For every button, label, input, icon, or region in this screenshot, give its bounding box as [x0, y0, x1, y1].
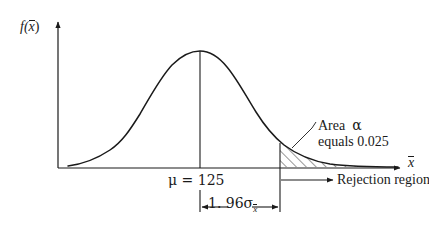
- y-axis-label-close: ): [35, 19, 40, 34]
- critical-distance-subscript: x: [253, 204, 257, 214]
- critical-distance-value: 1. 96σ: [208, 195, 253, 211]
- area-annotation-line2: equals 0.025: [318, 134, 389, 150]
- rejection-region-label: Rejection region: [337, 172, 429, 188]
- mean-label: μ = 125: [168, 173, 224, 189]
- area-alpha-annotation: Area αequals 0.025: [318, 118, 389, 149]
- y-axis-label: f(x): [20, 19, 39, 35]
- y-axis-label-fn: f(: [20, 19, 29, 34]
- alpha-symbol: α: [352, 117, 361, 133]
- mean-label-text: μ = 125: [168, 172, 224, 188]
- y-axis-label-var: x: [29, 19, 35, 35]
- x-axis-label-var: x: [408, 155, 414, 171]
- area-leader-line: [292, 122, 316, 148]
- critical-distance-label: 1. 96σx: [208, 196, 257, 214]
- x-axis-label: x: [408, 155, 414, 171]
- distribution-diagram: [0, 0, 429, 225]
- area-annotation-line1: Area: [318, 118, 345, 133]
- normal-curve: [68, 51, 398, 167]
- statistics-figure: f(x) x Area αequals 0.025 μ = 125 1. 96σ…: [0, 0, 429, 225]
